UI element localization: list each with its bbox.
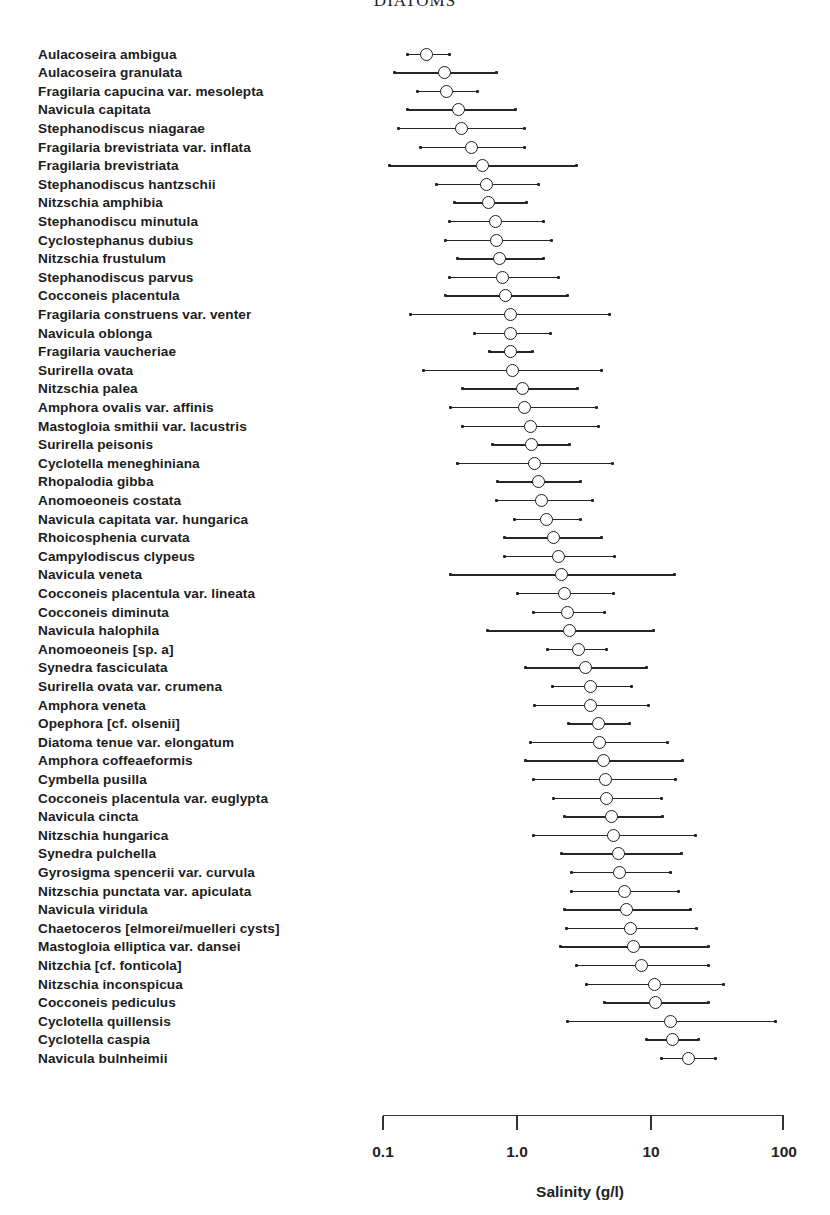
range-end-marker	[503, 555, 506, 558]
range-end-marker	[533, 704, 536, 707]
species-row: Navicula veneta	[0, 566, 830, 584]
species-label: Navicula oblonga	[38, 325, 152, 343]
species-label: Mastogloia elliptica var. dansei	[38, 938, 241, 956]
range-end-marker	[645, 1038, 648, 1041]
optimum-marker-icon	[504, 308, 517, 321]
range-end-marker	[476, 90, 479, 93]
range-end-marker	[422, 369, 425, 372]
species-row: Stephanodiscus hantzschii	[0, 176, 830, 194]
species-row: Amphora coffeaeformis	[0, 752, 830, 770]
range-end-marker	[523, 146, 526, 149]
range-end-marker	[669, 871, 672, 874]
range-end-marker	[563, 815, 566, 818]
species-label: Navicula halophila	[38, 622, 159, 640]
range-end-marker	[393, 71, 396, 74]
species-label: Amphora ovalis var. affinis	[38, 399, 214, 417]
optimum-marker-icon	[465, 141, 478, 154]
species-label: Amphora coffeaeformis	[38, 752, 193, 770]
optimum-marker-icon	[489, 215, 502, 228]
range-end-marker	[628, 722, 631, 725]
optimum-marker-icon	[593, 736, 606, 749]
range-end-marker	[595, 406, 598, 409]
optimum-marker-icon	[499, 289, 512, 302]
optimum-marker-icon	[572, 643, 585, 656]
species-label: Stephanodiscu minutula	[38, 213, 198, 231]
range-end-marker	[707, 1001, 710, 1004]
species-row: Cyclostephanus dubius	[0, 232, 830, 250]
species-row: Synedra fasciculata	[0, 659, 830, 677]
range-end-marker	[435, 183, 438, 186]
species-row: Cocconeis placentula var. lineata	[0, 585, 830, 603]
range-end-marker	[695, 927, 698, 930]
species-row: Nitzschia hungarica	[0, 827, 830, 845]
species-row: Rhopalodia gibba	[0, 473, 830, 491]
optimum-marker-icon	[482, 196, 495, 209]
x-tick-1	[516, 1116, 518, 1130]
range-end-marker	[568, 443, 571, 446]
range-end-marker	[537, 183, 540, 186]
species-row: Fragilaria construens var. venter	[0, 306, 830, 324]
species-label: Synedra pulchella	[38, 845, 156, 863]
species-label: Cyclotella quillensis	[38, 1013, 171, 1031]
species-label: Stephanodiscus hantzschii	[38, 176, 216, 194]
optimum-marker-icon	[532, 475, 545, 488]
range-end-marker	[524, 759, 527, 762]
range-end-marker	[714, 1057, 717, 1060]
species-row: Cyclotella caspia	[0, 1031, 830, 1049]
range-end-marker	[416, 90, 419, 93]
species-row: Surirella ovata var. crumena	[0, 678, 830, 696]
range-end-marker	[579, 480, 582, 483]
optimum-marker-icon	[440, 85, 453, 98]
range-end-marker	[550, 239, 553, 242]
range-end-marker	[495, 499, 498, 502]
species-label: Mastogloia smithii var. lacustris	[38, 418, 247, 436]
x-axis-label: Salinity (g/l)	[536, 1183, 624, 1201]
range-end-marker	[600, 536, 603, 539]
range-end-marker	[552, 797, 555, 800]
range-end-marker	[557, 276, 560, 279]
species-label: Anomoeoneis costata	[38, 492, 181, 510]
optimum-marker-icon	[627, 940, 640, 953]
x-tick-label: 100	[771, 1143, 797, 1161]
range-end-marker	[612, 592, 615, 595]
optimum-marker-icon	[438, 66, 451, 79]
species-row: Amphora ovalis var. affinis	[0, 399, 830, 417]
species-label: Nitzschia hungarica	[38, 827, 168, 845]
optimum-marker-icon	[618, 885, 631, 898]
optimum-marker-icon	[579, 661, 592, 674]
range-end-marker	[444, 294, 447, 297]
range-end-marker	[585, 983, 588, 986]
species-label: Fragilaria brevistriata	[38, 157, 179, 175]
optimum-marker-icon	[504, 345, 517, 358]
optimum-marker-icon	[584, 699, 597, 712]
range-end-marker	[532, 834, 535, 837]
species-label: Campylodiscus clypeus	[38, 548, 195, 566]
optimum-marker-icon	[496, 271, 509, 284]
range-end-marker	[560, 852, 563, 855]
range-end-marker	[674, 778, 677, 781]
species-row: Fragilaria capucina var. mesolepta	[0, 83, 830, 101]
optimum-marker-icon	[558, 587, 571, 600]
optimum-marker-icon	[476, 159, 489, 172]
species-range-plot: Aulacoseira ambiguaAulacoseira granulata…	[0, 0, 830, 1080]
optimum-marker-icon	[518, 401, 531, 414]
species-label: Fragilaria brevistriata var. inflata	[38, 139, 251, 157]
optimum-marker-icon	[535, 494, 548, 507]
range-end-marker	[647, 704, 650, 707]
range-end-marker	[680, 852, 683, 855]
species-label: Chaetoceros [elmorei/muelleri cysts]	[38, 920, 280, 938]
optimum-marker-icon	[599, 773, 612, 786]
species-row: Synedra pulchella	[0, 845, 830, 863]
range-end-marker	[694, 834, 697, 837]
optimum-marker-icon	[682, 1052, 695, 1065]
species-row: Nitzschia frustulum	[0, 250, 830, 268]
species-label: Gyrosigma spencerii var. curvula	[38, 864, 255, 882]
species-label: Cyclotella caspia	[38, 1031, 150, 1049]
optimum-marker-icon	[493, 252, 506, 265]
optimum-marker-icon	[607, 829, 620, 842]
range-end-marker	[689, 908, 692, 911]
optimum-marker-icon	[552, 550, 565, 563]
range-end-marker	[453, 201, 456, 204]
range-end-marker	[597, 425, 600, 428]
range-end-marker	[448, 53, 451, 56]
